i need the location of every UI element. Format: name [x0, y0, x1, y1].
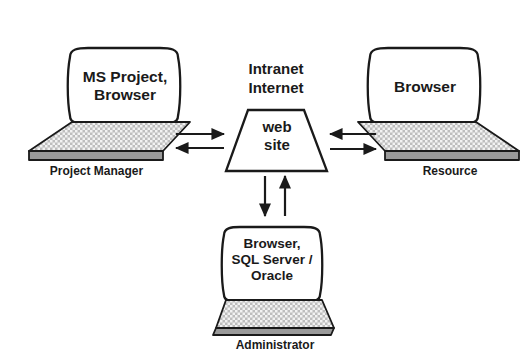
node-administrator[interactable] [213, 227, 334, 335]
laptop-screen-resource [368, 48, 481, 124]
web-site-label: web site [226, 118, 328, 155]
laptop-screen-administrator [222, 227, 323, 302]
caption-resource: Resource [380, 164, 520, 178]
laptop-front-edge-resource [385, 151, 519, 160]
laptop-keyboard-administrator [216, 300, 334, 328]
diagram-svg [0, 0, 528, 360]
caption-administrator: Administrator [205, 338, 345, 352]
caption-project-manager: Project Manager [14, 164, 179, 178]
diagram-canvas: MS Project, Browser Project Manager Intr… [0, 0, 528, 360]
laptop-keyboard-resource [358, 122, 519, 151]
node-resource[interactable] [358, 48, 519, 160]
web-site-network-label: Intranet Internet [224, 60, 328, 98]
laptop-front-edge-project-manager [29, 151, 163, 160]
laptop-front-edge-administrator [213, 328, 334, 335]
node-project-manager[interactable] [29, 48, 190, 160]
laptop-keyboard-project-manager [29, 122, 190, 151]
laptop-screen-project-manager [68, 48, 181, 124]
